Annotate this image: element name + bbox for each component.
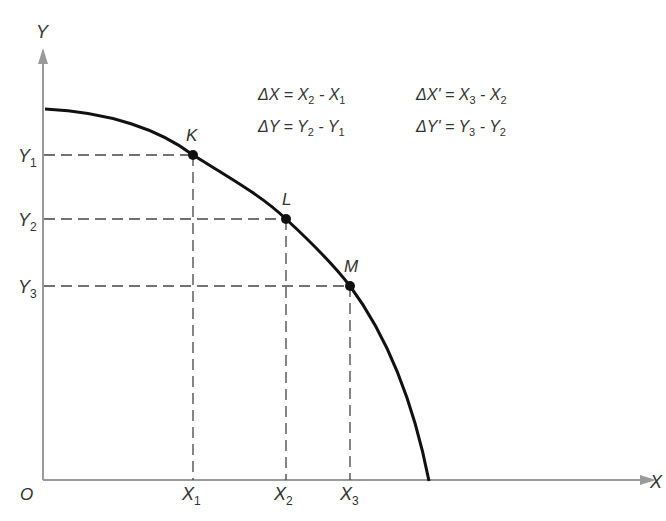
svg-text:X2: X2 xyxy=(273,484,293,508)
y-tick-1: Y1 xyxy=(18,146,37,170)
svg-text:X1: X1 xyxy=(181,484,201,508)
equation-delta-y: ΔY = Y2 - Y1 xyxy=(257,118,345,138)
svg-text:Y2: Y2 xyxy=(18,210,37,234)
y-axis-arrow-icon xyxy=(38,48,48,64)
point-l xyxy=(281,214,291,224)
y-tick-3: Y3 xyxy=(18,277,37,301)
svg-text:Y3: Y3 xyxy=(18,277,37,301)
svg-text:X3: X3 xyxy=(339,484,359,508)
origin-label: O xyxy=(20,485,33,504)
y-axis-label: Y xyxy=(36,22,50,42)
svg-text:Y1: Y1 xyxy=(18,146,37,170)
point-m xyxy=(345,281,355,291)
svg-text:ΔY' = Y3 - Y2: ΔY' = Y3 - Y2 xyxy=(415,118,506,138)
svg-text:ΔY = Y2 - Y1: ΔY = Y2 - Y1 xyxy=(257,118,345,138)
x-tick-1: X1 xyxy=(181,484,201,508)
label-k: K xyxy=(186,126,198,145)
y-tick-2: Y2 xyxy=(18,210,37,234)
label-m: M xyxy=(344,257,359,276)
svg-text:ΔX = X2 - X1: ΔX = X2 - X1 xyxy=(257,86,345,106)
x-axis-label: X xyxy=(649,472,663,492)
x-tick-3: X3 xyxy=(339,484,359,508)
equation-delta-x: ΔX = X2 - X1 xyxy=(257,86,345,106)
guide-lines xyxy=(44,155,350,480)
equation-delta-x-prime: ΔX' = X3 - X2 xyxy=(415,86,507,106)
point-k xyxy=(188,150,198,160)
ppf-diagram: K L M Y X O Y1 Y2 Y3 X1 X2 X3 ΔX = X2 - … xyxy=(0,0,666,521)
svg-text:ΔX' = X3 - X2: ΔX' = X3 - X2 xyxy=(415,86,507,106)
ppf-curve xyxy=(45,109,429,481)
equation-delta-y-prime: ΔY' = Y3 - Y2 xyxy=(415,118,506,138)
label-l: L xyxy=(282,190,291,209)
x-tick-2: X2 xyxy=(273,484,293,508)
